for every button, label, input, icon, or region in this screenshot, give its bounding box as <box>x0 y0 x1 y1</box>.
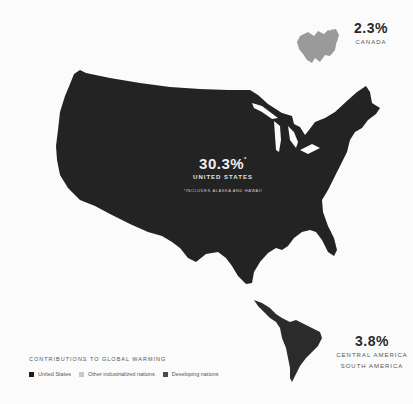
united-states-percent: 30.3% <box>199 155 244 172</box>
latin-america-name-line2: SOUTH AMERICA <box>332 362 412 371</box>
legend-item-united-states: United States <box>29 371 71 377</box>
legend-swatch-icon <box>163 372 168 377</box>
canada-shape <box>297 29 339 63</box>
united-states-label: 30.3%* UNITED STATES *INCLUDES ALASKA AN… <box>158 155 288 193</box>
united-states-percent-row: 30.3%* <box>158 155 288 172</box>
legend-items: United States Other industrialized natio… <box>29 371 218 377</box>
legend-item-other-industrialized: Other industrialized nations <box>79 371 155 377</box>
legend-label: Developing nations <box>172 371 219 377</box>
legend-swatch-icon <box>79 372 84 377</box>
legend-item-developing: Developing nations <box>163 371 219 377</box>
latin-america-percent: 3.8% <box>332 333 412 349</box>
legend-label: United States <box>38 371 71 377</box>
canada-percent: 2.3% <box>345 20 397 36</box>
legend-label: Other industrialized nations <box>88 371 155 377</box>
latin-america-label: 3.8% CENTRAL AMERICA SOUTH AMERICA <box>332 333 412 371</box>
legend-title: CONTRIBUTIONS TO GLOBAL WARMING <box>29 356 218 362</box>
asterisk: * <box>244 156 247 162</box>
legend-swatch-icon <box>29 372 34 377</box>
canada-name: CANADA <box>345 39 397 45</box>
canada-label: 2.3% CANADA <box>345 20 397 45</box>
latin-america-name-line1: CENTRAL AMERICA <box>332 351 412 360</box>
united-states-footnote: *INCLUDES ALASKA AND HAWAII <box>158 188 288 193</box>
united-states-name: UNITED STATES <box>158 174 288 180</box>
latin-america-shape <box>254 300 322 382</box>
legend: CONTRIBUTIONS TO GLOBAL WARMING United S… <box>29 356 218 377</box>
